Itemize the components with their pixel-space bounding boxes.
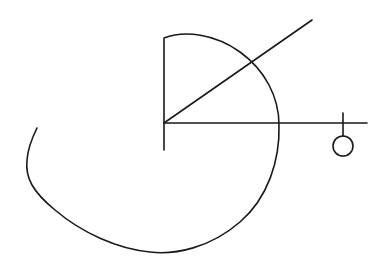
spiral-curve <box>27 34 279 253</box>
end-marker-circle-icon <box>333 136 353 156</box>
diagram-svg <box>0 0 386 265</box>
diagonal-ray-line <box>164 20 312 123</box>
diagram-canvas <box>0 0 386 265</box>
